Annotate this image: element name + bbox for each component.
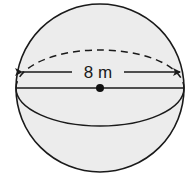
sphere-figure: 8 m xyxy=(0,0,193,179)
diameter-label: 8 m xyxy=(84,63,112,82)
sphere-diagram: 8 m xyxy=(0,0,193,179)
center-point xyxy=(96,84,104,92)
